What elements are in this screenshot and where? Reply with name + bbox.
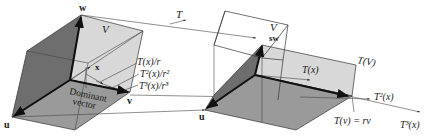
label-x: x xyxy=(95,62,100,72)
label-T-transform: T xyxy=(176,8,183,20)
label-Tv-eq-rv: T(v) = rv xyxy=(334,115,371,127)
label-u-right: u xyxy=(199,111,205,122)
dominant-eigenvector-diagram: w u v V x Dominant vector T(x)/r T²(x)/r… xyxy=(0,0,428,139)
label-w: w xyxy=(79,2,87,13)
label-T3x-over-r3: T³(x)/r³ xyxy=(139,80,169,92)
label-v: v xyxy=(127,95,132,106)
label-T3x-right: T³(x) xyxy=(400,119,420,131)
label-T2x-right: T²(x) xyxy=(374,91,394,103)
diagram-svg: w u v V x Dominant vector T(x)/r T²(x)/r… xyxy=(0,0,428,139)
label-u-left: u xyxy=(4,119,10,130)
label-TV: T(V) xyxy=(356,54,377,69)
label-Tx-over-r: T(x)/r xyxy=(137,56,160,68)
label-sw: sw xyxy=(269,33,280,43)
label-T2x-over-r2: T²(x)/r² xyxy=(140,68,170,80)
label-Tx-right: T(x) xyxy=(302,64,319,76)
